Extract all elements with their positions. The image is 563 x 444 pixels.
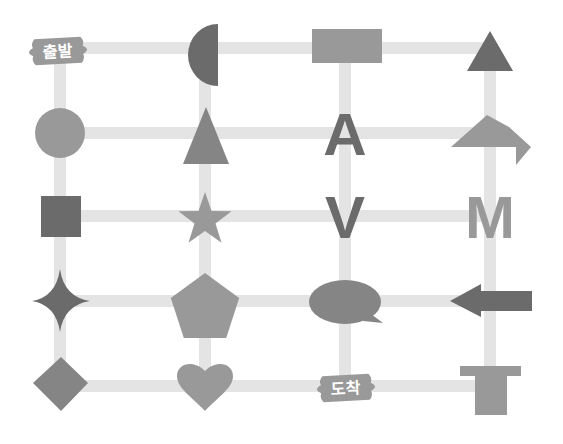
node-rectangle [312, 29, 382, 63]
node-half-circle [188, 24, 218, 86]
horizontal-path-2 [60, 210, 490, 222]
letter-V: V [325, 184, 365, 251]
square-shape [41, 196, 81, 237]
horizontal-path-0 [60, 42, 490, 54]
half-circle-shape [188, 24, 218, 86]
end-sign: 도착 [316, 374, 375, 403]
node-square [41, 196, 81, 237]
start-sign-label: 출발 [43, 41, 74, 62]
diamond-shape [33, 357, 88, 411]
node-letter: A [323, 101, 366, 168]
node-end-sign: 도착 [316, 374, 375, 403]
end-sign-label: 도착 [331, 378, 362, 399]
node-diamond [33, 357, 88, 411]
t-shape-stem [475, 374, 507, 415]
node-circle [35, 108, 85, 158]
node-start-sign: 출발 [28, 37, 87, 66]
letter-A: A [323, 101, 366, 168]
four-point-star-shape [32, 269, 90, 332]
node-speech-bubble [309, 280, 383, 324]
circle-shape [35, 108, 85, 158]
horizontal-path-4 [60, 380, 490, 392]
heart-shape [177, 364, 233, 411]
pentagon-shape [171, 273, 239, 338]
maze-diagram: 출발AVM도착 [0, 0, 563, 444]
rectangle-shape [312, 29, 382, 63]
node-letter: M [465, 184, 515, 251]
node-pentagon [171, 273, 239, 338]
horizontal-path-3 [60, 295, 490, 307]
node-letter: V [325, 184, 365, 251]
start-sign: 출발 [28, 37, 87, 66]
horizontal-path-1 [60, 127, 490, 139]
node-four-point-star [32, 269, 90, 332]
node-heart [177, 364, 233, 411]
letter-M: M [465, 184, 515, 251]
grid-lines [54, 42, 496, 392]
